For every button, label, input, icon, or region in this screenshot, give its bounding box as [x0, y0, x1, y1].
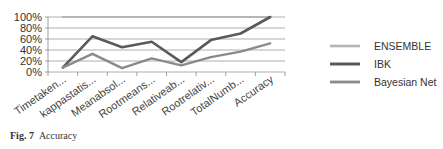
x-axis: Timetaken...kappastatis...Meanabsol...Ro…	[12, 72, 285, 120]
legend: ENSEMBLEIBKBayesian Net	[330, 40, 437, 88]
legend-label: ENSEMBLE	[374, 40, 431, 52]
y-tick-label: 100%	[14, 11, 42, 23]
series-lines	[63, 17, 270, 68]
legend-label: IBK	[374, 58, 391, 70]
line-chart: 0%20%40%60%80%100% Timetaken...kappastat…	[0, 0, 443, 130]
figure-number: Fig. 7	[10, 130, 34, 141]
y-axis: 0%20%40%60%80%100%	[14, 11, 48, 78]
y-tick-label: 0%	[26, 66, 42, 78]
series-line-bayesian-net	[63, 43, 270, 68]
y-tick-label: 20%	[20, 55, 42, 67]
figure-title: Accuracy	[39, 130, 77, 141]
legend-label: Bayesian Net	[374, 76, 437, 88]
series-line-ibk	[63, 17, 270, 68]
y-tick-label: 60%	[20, 33, 42, 45]
y-tick-label: 40%	[20, 44, 42, 56]
figure-caption: Fig. 7 Accuracy	[10, 130, 77, 141]
y-tick-label: 80%	[20, 22, 42, 34]
